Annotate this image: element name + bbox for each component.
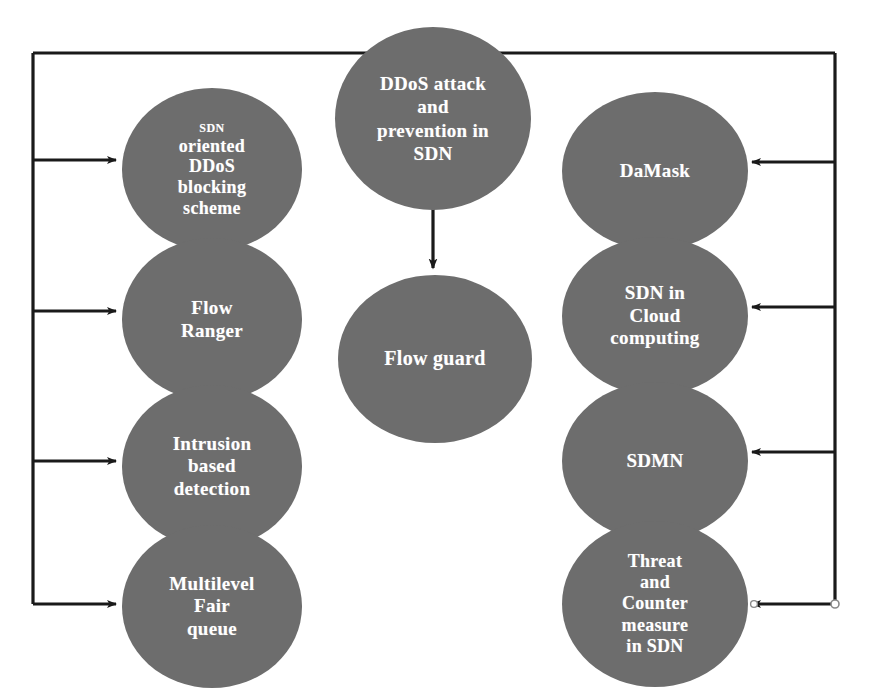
node-label: Flow guard: [378, 347, 491, 371]
node-label: oriented DDoS blocking scheme: [178, 136, 246, 218]
node-multilevel-fair-queue[interactable]: Multilevel Fair queue: [122, 525, 302, 688]
node-label: SDMN: [620, 450, 689, 472]
bus-terminal-dot: [751, 601, 758, 608]
node-label-small-first-line: SDN: [178, 121, 246, 136]
node-label: Multilevel Fair queue: [163, 573, 260, 640]
node-label: DaMask: [614, 160, 696, 182]
left-distribution-bus: [33, 53, 116, 604]
node-label-wrapper: SDNoriented DDoS blocking scheme: [172, 121, 252, 218]
node-sdn-oriented-ddos-blocking-scheme[interactable]: SDNoriented DDoS blocking scheme: [122, 88, 302, 251]
node-intrusion-based-detection[interactable]: Intrusion based detection: [122, 385, 302, 548]
diagram-canvas: DDoS attack and prevention in SDN Flow g…: [0, 0, 871, 700]
node-label: Threat and Counter measure in SDN: [616, 551, 695, 656]
node-label: Flow Ranger: [175, 297, 249, 342]
node-flow-guard[interactable]: Flow guard: [338, 275, 532, 443]
node-label: SDN in Cloud computing: [604, 282, 705, 349]
node-label: Intrusion based detection: [167, 433, 258, 500]
node-label: DDoS attack and prevention in SDN: [371, 72, 495, 165]
node-flow-ranger[interactable]: Flow Ranger: [122, 238, 302, 401]
node-ddos-attack-and-prevention-in-sdn[interactable]: DDoS attack and prevention in SDN: [335, 27, 531, 210]
bus-endpoint-dot: [831, 600, 839, 608]
node-threat-and-counter-measure-in-sdn[interactable]: Threat and Counter measure in SDN: [562, 521, 748, 687]
node-sdn-in-cloud-computing[interactable]: SDN in Cloud computing: [562, 237, 748, 395]
node-sdmn[interactable]: SDMN: [562, 382, 748, 540]
right-distribution-bus: [751, 53, 839, 608]
node-damask[interactable]: DaMask: [562, 92, 748, 250]
